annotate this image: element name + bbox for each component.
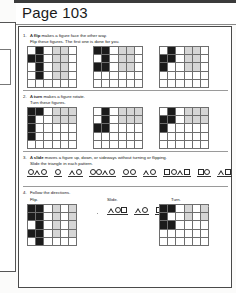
grid-cell[interactable]	[44, 213, 52, 221]
q4-slide-pattern-row[interactable]	[107, 207, 163, 215]
grid-cell[interactable]	[53, 205, 61, 213]
grid-cell[interactable]	[110, 72, 118, 80]
grid-cell[interactable]	[119, 47, 127, 55]
grid-cell[interactable]	[185, 141, 193, 149]
grid-cell[interactable]	[160, 205, 168, 213]
grid-cell[interactable]	[94, 108, 102, 116]
grid-cell[interactable]	[44, 80, 52, 88]
pattern-group[interactable]	[122, 169, 137, 177]
grid-cell[interactable]	[36, 47, 44, 55]
grid-cell[interactable]	[28, 238, 36, 246]
grid-cell[interactable]	[168, 133, 176, 141]
grid-cell[interactable]	[36, 55, 44, 63]
grid-cell[interactable]	[61, 205, 69, 213]
grid-cell[interactable]	[185, 230, 193, 238]
grid-cell[interactable]	[61, 72, 69, 80]
grid-cell[interactable]	[127, 80, 135, 88]
grid-cell[interactable]	[44, 72, 52, 80]
grid-cell[interactable]	[201, 80, 209, 88]
grid-cell[interactable]	[28, 116, 36, 124]
grid-cell[interactable]	[168, 63, 176, 71]
grid-cell[interactable]	[69, 221, 77, 229]
grid-cell[interactable]	[94, 116, 102, 124]
grid-cell[interactable]	[61, 141, 69, 149]
q4-flip-grid[interactable]	[27, 204, 77, 246]
grid-cell[interactable]	[119, 55, 127, 63]
q2-grid-2[interactable]	[93, 107, 143, 149]
grid-cell[interactable]	[176, 55, 184, 63]
grid-cell[interactable]	[36, 63, 44, 71]
grid-cell[interactable]	[201, 124, 209, 132]
grid-cell[interactable]	[168, 205, 176, 213]
grid-cell[interactable]	[160, 72, 168, 80]
grid-cell[interactable]	[127, 72, 135, 80]
grid-cell[interactable]	[36, 72, 44, 80]
grid-cell[interactable]	[119, 63, 127, 71]
grid-cell[interactable]	[53, 80, 61, 88]
grid-cell[interactable]	[110, 63, 118, 71]
grid-cell[interactable]	[135, 80, 143, 88]
grid-cell[interactable]	[36, 108, 44, 116]
grid-cell[interactable]	[201, 238, 209, 246]
grid-cell[interactable]	[44, 47, 52, 55]
grid-cell[interactable]	[176, 230, 184, 238]
grid-cell[interactable]	[36, 116, 44, 124]
grid-cell[interactable]	[193, 47, 201, 55]
pattern-group[interactable]	[134, 207, 149, 215]
grid-cell[interactable]	[176, 141, 184, 149]
grid-cell[interactable]	[44, 124, 52, 132]
grid-cell[interactable]	[110, 80, 118, 88]
grid-cell[interactable]	[193, 55, 201, 63]
q1-grid-2[interactable]	[93, 46, 143, 88]
grid-cell[interactable]	[168, 108, 176, 116]
grid-cell[interactable]	[61, 230, 69, 238]
grid-cell[interactable]	[28, 133, 36, 141]
grid-cell[interactable]	[61, 116, 69, 124]
grid-cell[interactable]	[102, 116, 110, 124]
grid-cell[interactable]	[94, 47, 102, 55]
grid-cell[interactable]	[94, 133, 102, 141]
grid-cell[interactable]	[61, 221, 69, 229]
grid-cell[interactable]	[36, 124, 44, 132]
grid-cell[interactable]	[193, 63, 201, 71]
grid-cell[interactable]	[36, 221, 44, 229]
grid-cell[interactable]	[160, 116, 168, 124]
grid-cell[interactable]	[102, 141, 110, 149]
grid-cell[interactable]	[69, 205, 77, 213]
grid-cell[interactable]	[69, 108, 77, 116]
grid-cell[interactable]	[44, 116, 52, 124]
grid-cell[interactable]	[168, 116, 176, 124]
grid-cell[interactable]	[176, 205, 184, 213]
grid-cell[interactable]	[185, 221, 193, 229]
grid-cell[interactable]	[36, 213, 44, 221]
grid-cell[interactable]	[135, 116, 143, 124]
grid-cell[interactable]	[53, 238, 61, 246]
grid-cell[interactable]	[110, 141, 118, 149]
grid-cell[interactable]	[69, 238, 77, 246]
grid-cell[interactable]	[110, 55, 118, 63]
grid-cell[interactable]	[168, 221, 176, 229]
grid-cell[interactable]	[193, 133, 201, 141]
grid-cell[interactable]	[119, 133, 127, 141]
grid-cell[interactable]	[110, 108, 118, 116]
grid-cell[interactable]	[168, 47, 176, 55]
pattern-group[interactable]	[143, 169, 158, 177]
grid-cell[interactable]	[44, 141, 52, 149]
grid-cell[interactable]	[135, 124, 143, 132]
grid-cell[interactable]	[135, 133, 143, 141]
grid-cell[interactable]	[185, 63, 193, 71]
grid-cell[interactable]	[53, 47, 61, 55]
grid-cell[interactable]	[94, 124, 102, 132]
grid-cell[interactable]	[61, 213, 69, 221]
grid-cell[interactable]	[135, 55, 143, 63]
pattern-group[interactable]	[107, 207, 128, 215]
grid-cell[interactable]	[94, 55, 102, 63]
grid-cell[interactable]	[53, 72, 61, 80]
grid-cell[interactable]	[102, 72, 110, 80]
grid-cell[interactable]	[168, 124, 176, 132]
grid-cell[interactable]	[168, 141, 176, 149]
grid-cell[interactable]	[135, 63, 143, 71]
grid-cell[interactable]	[28, 213, 36, 221]
grid-cell[interactable]	[94, 63, 102, 71]
grid-cell[interactable]	[69, 230, 77, 238]
